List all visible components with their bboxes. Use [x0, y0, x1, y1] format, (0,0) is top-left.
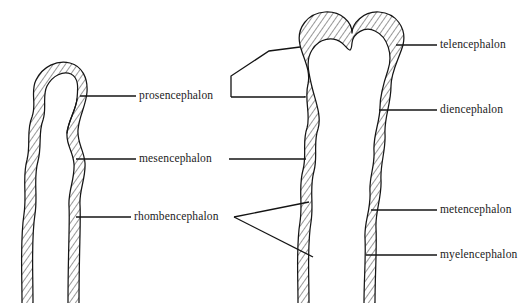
label-myelencephalon: myelencephalon	[440, 248, 517, 260]
label-rhombencephalon: rhombencephalon	[134, 210, 219, 222]
label-mesencephalon: mesencephalon	[139, 152, 212, 164]
label-prosencephalon: prosencephalon	[139, 89, 213, 101]
leader-rhombencephalon-fork-upper	[234, 202, 309, 217]
label-telencephalon: telencephalon	[440, 38, 506, 50]
leader-prosencephalon-bracket-wedge	[231, 47, 300, 97]
figure-canvas: prosencephalon mesencephalon rhombenceph…	[0, 0, 530, 303]
leader-prosencephalon-bracket-base	[231, 96, 305, 97]
label-diencephalon: diencephalon	[440, 103, 503, 115]
label-metencephalon: metencephalon	[440, 203, 512, 215]
